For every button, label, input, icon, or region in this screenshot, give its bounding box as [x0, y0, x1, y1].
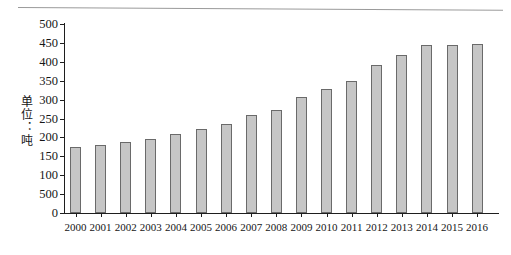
- bar-2000: [70, 147, 81, 213]
- bar-2016: [472, 44, 483, 213]
- x-axis-tick-mark: [327, 213, 328, 217]
- y-axis-tick-label: 100: [39, 169, 58, 182]
- y-axis-title: 单位：吨: [11, 95, 31, 147]
- y-axis-tick-mark: [60, 119, 64, 120]
- x-axis-tick-mark: [377, 213, 378, 217]
- x-axis-tick-mark: [477, 213, 478, 217]
- y-axis-tick-label: 500: [39, 188, 58, 201]
- y-axis-tick-mark: [60, 194, 64, 195]
- y-axis-tick-mark: [60, 137, 64, 138]
- bar-2002: [120, 142, 131, 213]
- y-axis-tick-mark: [60, 100, 64, 101]
- y-axis-tick-label: 150: [39, 150, 58, 163]
- bar-2006: [221, 124, 232, 213]
- bar-2011: [346, 81, 357, 213]
- y-axis-tick-label: 400: [39, 56, 58, 69]
- x-axis-tick-label-2008: 2008: [265, 221, 287, 233]
- y-axis-tick-label: 450: [39, 37, 58, 50]
- bar-2012: [371, 65, 382, 213]
- x-axis-tick-mark: [301, 213, 302, 217]
- x-axis-tick-label-2011: 2011: [341, 221, 363, 233]
- bar-2014: [421, 45, 432, 213]
- y-axis-tick-mark: [60, 43, 64, 44]
- x-axis-tick-label-2013: 2013: [391, 221, 413, 233]
- x-axis-tick-mark: [402, 213, 403, 217]
- x-axis-tick-mark: [452, 213, 453, 217]
- x-axis-tick-label-2000: 2000: [65, 221, 87, 233]
- x-axis-tick-label-2006: 2006: [215, 221, 237, 233]
- y-axis-tick-label: 500: [39, 18, 58, 31]
- bar-2007: [246, 115, 257, 213]
- bar-2013: [396, 55, 407, 213]
- x-axis-tick-label-2015: 2015: [441, 221, 463, 233]
- x-axis-tick-mark: [76, 213, 77, 217]
- y-axis-tick-mark: [60, 81, 64, 82]
- y-axis-tick-mark: [60, 213, 64, 214]
- y-axis-tick-mark: [60, 62, 64, 63]
- y-axis-tick-mark: [60, 175, 64, 176]
- x-axis-tick-mark: [126, 213, 127, 217]
- x-axis-tick-label-2016: 2016: [466, 221, 488, 233]
- bar-2001: [95, 145, 106, 213]
- x-axis-tick-mark: [226, 213, 227, 217]
- x-axis-tick-label-2010: 2010: [316, 221, 338, 233]
- x-axis-tick-label-2003: 2003: [140, 221, 162, 233]
- bar-2009: [296, 97, 307, 213]
- x-axis-tick-mark: [276, 213, 277, 217]
- y-axis-tick-label: 250: [39, 112, 58, 125]
- x-axis-tick-label-2012: 2012: [366, 221, 388, 233]
- bar-2005: [196, 129, 207, 213]
- bar-chart-figure: 单位：吨 0500100150200250300350400450500 200…: [0, 0, 511, 255]
- x-axis-tick-mark: [427, 213, 428, 217]
- x-axis-line: [64, 213, 499, 214]
- y-axis-tick-label: 200: [39, 131, 58, 144]
- x-axis-tick-label-2009: 2009: [290, 221, 312, 233]
- x-axis-tick-label-2005: 2005: [190, 221, 212, 233]
- x-axis-tick-label-2004: 2004: [165, 221, 187, 233]
- x-axis-tick-mark: [251, 213, 252, 217]
- plot-area: 0500100150200250300350400450500: [64, 24, 498, 213]
- bar-2010: [321, 89, 332, 213]
- y-axis-tick-mark: [60, 156, 64, 157]
- x-axis-tick-mark: [176, 213, 177, 217]
- x-axis-tick-label-2001: 2001: [90, 221, 112, 233]
- bar-2003: [145, 139, 156, 213]
- y-axis-tick-label: 350: [39, 74, 58, 87]
- bar-2004: [170, 134, 181, 213]
- x-axis-tick-label-2007: 2007: [240, 221, 262, 233]
- x-axis-tick-mark: [151, 213, 152, 217]
- x-axis-tick-mark: [201, 213, 202, 217]
- x-axis-tick-mark: [101, 213, 102, 217]
- bar-2015: [447, 45, 458, 213]
- bar-2008: [271, 110, 282, 213]
- x-axis-tick-label-2014: 2014: [416, 221, 438, 233]
- x-axis-tick-label-2002: 2002: [115, 221, 137, 233]
- y-axis-tick-mark: [60, 24, 64, 25]
- x-axis-tick-mark: [352, 213, 353, 217]
- y-axis-tick-label: 0: [52, 207, 58, 220]
- y-axis-tick-label: 300: [39, 93, 58, 106]
